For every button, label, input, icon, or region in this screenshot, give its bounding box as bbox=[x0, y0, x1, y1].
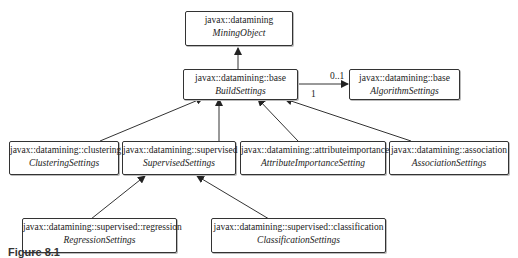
package-name: javax::datamining::supervised bbox=[123, 144, 235, 157]
class-box-clusteringsettings: javax::datamining::clustering Clustering… bbox=[9, 141, 119, 175]
package-name: javax::datamining::base bbox=[350, 72, 459, 85]
package-name: javax::datamining::association bbox=[390, 144, 508, 157]
class-box-algorithmsettings: javax::datamining::base AlgorithmSetting… bbox=[349, 69, 460, 100]
class-name: AttributeImportanceSetting bbox=[241, 157, 385, 170]
class-name: SupervisedSettings bbox=[123, 157, 235, 170]
edge-association-build bbox=[285, 99, 411, 141]
package-name: javax::datamining::clustering bbox=[10, 144, 118, 157]
package-name: javax::datamining::base bbox=[184, 72, 297, 85]
class-name: MiningObject bbox=[186, 27, 292, 40]
multiplicity-source: 1 bbox=[311, 89, 316, 99]
edge-attrimportance-build bbox=[258, 99, 298, 141]
package-name: javax::datamining bbox=[186, 14, 292, 27]
class-box-buildsettings: javax::datamining::base BuildSettings bbox=[183, 69, 298, 100]
package-name: javax::datamining::supervised::classific… bbox=[212, 221, 385, 234]
class-name: RegressionSettings bbox=[23, 234, 176, 247]
class-box-miningobject: javax::datamining MiningObject bbox=[185, 11, 293, 46]
figure-caption: Figure 8.1 bbox=[8, 246, 60, 258]
package-name: javax::datamining::attributeimportance bbox=[241, 144, 385, 157]
class-name: AssociationSettings bbox=[390, 157, 508, 170]
package-name: javax::datamining::supervised::regressio… bbox=[23, 221, 176, 234]
class-name: ClusteringSettings bbox=[10, 157, 118, 170]
class-name: ClassificationSettings bbox=[212, 234, 385, 247]
class-box-associationsettings: javax::datamining::association Associati… bbox=[389, 141, 509, 175]
class-box-attributeimportancesetting: javax::datamining::attributeimportance A… bbox=[240, 141, 386, 175]
class-name: BuildSettings bbox=[184, 85, 297, 98]
class-name: AlgorithmSettings bbox=[350, 85, 459, 98]
class-box-classificationsettings: javax::datamining::supervised::classific… bbox=[211, 218, 386, 253]
edge-clustering-build bbox=[100, 98, 203, 141]
class-box-supervisedsettings: javax::datamining::supervised Supervised… bbox=[122, 141, 236, 175]
edge-regression-supervised bbox=[91, 176, 145, 219]
edge-classification-supervised bbox=[197, 176, 269, 219]
multiplicity-target: 0..1 bbox=[330, 71, 344, 81]
